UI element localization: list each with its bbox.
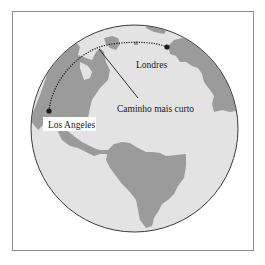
los-angeles-label: Los Angeles	[48, 120, 96, 130]
los-angeles-marker	[46, 108, 51, 113]
globe-diagram: Los Angeles Londres Caminho mais curto	[0, 0, 265, 265]
london-marker	[164, 44, 169, 49]
shortest-route-label: Caminho mais curto	[117, 104, 194, 114]
london-label: Londres	[136, 60, 167, 70]
